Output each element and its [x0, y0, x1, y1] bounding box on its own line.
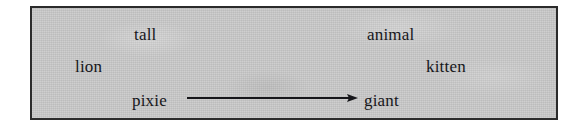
word-giant: giant: [364, 91, 399, 110]
figure-panel: tall animal lion kitten pixie giant: [30, 6, 558, 120]
word-kitten: kitten: [426, 57, 466, 76]
arrow-layer: [32, 8, 560, 122]
figure-canvas: tall animal lion kitten pixie giant: [0, 0, 579, 127]
word-tall: tall: [134, 25, 157, 44]
word-pixie: pixie: [132, 91, 167, 110]
word-animal: animal: [367, 25, 414, 44]
word-lion: lion: [75, 57, 102, 76]
pixie-to-giant-arrow: [187, 94, 358, 102]
